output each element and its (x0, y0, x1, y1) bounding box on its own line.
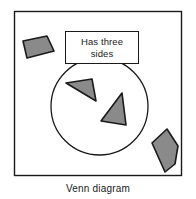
venn-diagram-figure: Has three sides Venn diagram (0, 0, 196, 199)
diagram-canvas (0, 0, 196, 199)
figure-caption: Venn diagram (0, 183, 196, 194)
circle-label-text: Has three sides (81, 36, 123, 60)
circle-label-box: Has three sides (65, 31, 139, 64)
